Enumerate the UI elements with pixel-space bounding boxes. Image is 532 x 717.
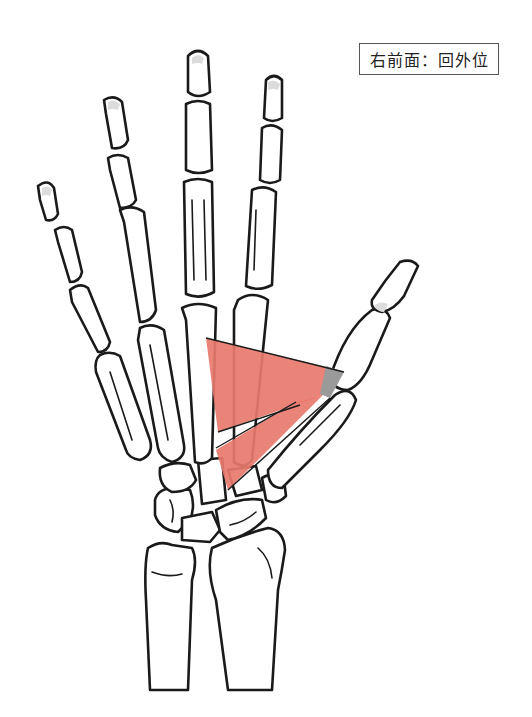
hand-skeleton-illustration <box>0 0 532 717</box>
view-label-text: 右前面：回外位 <box>370 47 489 71</box>
ulna <box>145 543 195 690</box>
forearm-bones <box>145 528 285 690</box>
anatomy-figure: 右前面：回外位 <box>0 0 532 717</box>
view-label: 右前面：回外位 <box>359 43 499 75</box>
radius <box>210 528 285 690</box>
middle-finger <box>182 51 216 463</box>
